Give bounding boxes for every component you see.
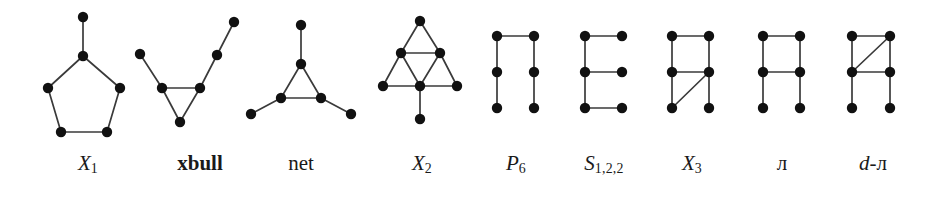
graph-vertex [346,109,356,119]
graph-edge [420,21,440,53]
graph-X1 [43,12,125,137]
graph-vertex [415,16,425,26]
graph-vertex [529,103,539,113]
graph-vertex [667,103,677,113]
graph-net [246,20,356,119]
graph-edge [107,88,120,132]
graph-edge [672,72,709,108]
graph-edge [440,53,457,86]
graph-edge [48,56,83,88]
graph-vertex [667,67,677,77]
graph-vertex [246,109,256,119]
graph-vertex [847,67,857,77]
graph-edge [48,88,61,132]
graph-vertex [276,93,286,103]
graph-edge [217,22,234,55]
graph-edge [162,88,180,122]
graph-vertex [580,103,590,113]
graph-vertex [175,117,185,127]
graph-vertex [704,31,714,41]
graph-vertex [667,31,677,41]
graph-vertex [885,103,895,113]
graph-X2 [378,16,462,124]
graph-vertex [580,31,590,41]
graph-family-figure: X1xbullnetX2P6S1,2,2X3ᴫd-ᴫ [0,0,939,198]
graph-edge [200,55,217,88]
graph-P6 [492,31,539,113]
graph-vertex [229,17,239,27]
graph-vertex [316,93,326,103]
graph-vertex [115,83,125,93]
graph-S122 [580,31,627,113]
graph-vertex [885,31,895,41]
graph-vertex [617,67,627,77]
graph-vertex [885,67,895,77]
graph-vertex [296,59,306,69]
graph-xbull [135,17,239,127]
graph-edge [852,36,890,72]
graph-edge [83,56,120,88]
graph-vertex [378,81,388,91]
graph-vertex [415,81,425,91]
graph-vertex [56,127,66,137]
graph-vertex [492,67,502,77]
graph-edge [401,53,420,86]
graph-vertex [795,103,805,113]
graph-vertex [135,49,145,59]
graph-vertex [43,83,53,93]
graph-edge [401,21,420,53]
graph-vertex [157,83,167,93]
graph-vertex [435,48,445,58]
graph-vertex [415,114,425,124]
graph-vertex [452,81,462,91]
graph-vertex [78,12,88,22]
graph-vertex [529,31,539,41]
graph-edge [281,64,301,98]
graph-vertex [847,31,857,41]
graph-vertex [396,48,406,58]
graph-vertex [580,67,590,77]
graph-vertex [758,67,768,77]
graph-vertex [78,51,88,61]
graph-vertex [492,31,502,41]
graph-vertex [195,83,205,93]
graph-vertex [704,103,714,113]
graph-vertex [492,103,502,113]
graph-dA [847,31,895,113]
graph-edge [301,64,321,98]
graph-vertex [529,67,539,77]
graph-vertex [758,103,768,113]
graph-vertex [296,20,306,30]
graph-label-dA: d-ᴫ [783,153,939,174]
graph-vertex [704,67,714,77]
graph-vertex [795,67,805,77]
graph-vertex [795,31,805,41]
graph-vertex [212,50,222,60]
graph-A [758,31,805,113]
graph-edge [420,53,440,86]
graph-edge [140,54,162,88]
graph-vertex [617,103,627,113]
graph-vertex [758,31,768,41]
graph-X3 [667,31,714,113]
graph-edge [180,88,200,122]
graph-vertex [617,31,627,41]
graph-vertex [847,103,857,113]
graph-edge [383,53,401,86]
graph-vertex [102,127,112,137]
